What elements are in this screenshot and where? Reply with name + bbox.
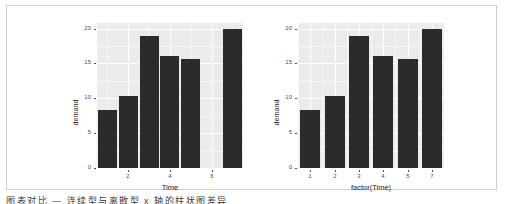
y-tick-mark <box>94 168 96 169</box>
y-tick-label: 0 <box>77 164 91 170</box>
plot-panel <box>298 23 444 168</box>
x-tick-label: 3 <box>351 173 367 179</box>
bar <box>398 59 418 168</box>
gridline-vertical-minor <box>298 23 299 168</box>
x-tick-label: 4 <box>162 173 178 179</box>
bar <box>422 29 442 168</box>
bar <box>140 36 159 168</box>
bar <box>223 29 242 168</box>
bar <box>349 36 369 168</box>
plot-panel <box>97 23 243 168</box>
y-tick-label: 5 <box>77 129 91 135</box>
x-tick-label: 2 <box>120 173 136 179</box>
caption-text: 图表对比 — 连续型与离散型 x 轴的柱状图差异 <box>6 196 228 204</box>
gridline-vertical-minor <box>347 23 348 168</box>
gridline-vertical-major <box>212 23 213 168</box>
y-tick-mark <box>94 29 96 30</box>
x-tick-label: 2 <box>327 173 343 179</box>
y-tick-mark <box>295 29 297 30</box>
x-tick-label: 4 <box>375 173 391 179</box>
x-axis-title: Time <box>97 183 243 192</box>
y-tick-label: 0 <box>278 164 292 170</box>
bar <box>160 56 179 168</box>
y-tick-label: 15 <box>278 59 292 65</box>
x-tick-mark <box>128 170 129 172</box>
y-tick-mark <box>295 133 297 134</box>
y-tick-mark <box>295 168 297 169</box>
y-tick-mark <box>94 98 96 99</box>
x-tick-mark <box>432 170 433 172</box>
x-tick-label: 7 <box>424 173 440 179</box>
x-tick-mark <box>170 170 171 172</box>
y-tick-mark <box>94 133 96 134</box>
bar <box>373 56 393 168</box>
y-tick-label: 15 <box>77 59 91 65</box>
x-tick-label: 5 <box>400 173 416 179</box>
gridline-vertical-minor <box>420 23 421 168</box>
bar <box>325 96 345 168</box>
y-tick-mark <box>295 63 297 64</box>
gridline-vertical-minor <box>395 23 396 168</box>
y-tick-mark <box>94 63 96 64</box>
y-tick-label: 5 <box>278 129 292 135</box>
x-tick-mark <box>408 170 409 172</box>
x-tick-mark <box>335 170 336 172</box>
gridline-vertical-minor <box>322 23 323 168</box>
bar <box>119 96 138 168</box>
y-tick-label: 20 <box>77 25 91 31</box>
y-tick-label: 10 <box>77 94 91 100</box>
x-tick-mark <box>212 170 213 172</box>
x-tick-mark <box>383 170 384 172</box>
y-tick-label: 20 <box>278 25 292 31</box>
bar <box>181 59 200 168</box>
chart-discrete-x: demand 05101520 123457 factor(Time) <box>252 6 496 191</box>
y-tick-label: 10 <box>278 94 292 100</box>
figure-frame: demand 05101520 246 Time demand 05101520… <box>6 5 497 190</box>
x-tick-label: 6 <box>204 173 220 179</box>
x-tick-mark <box>310 170 311 172</box>
figure-caption-cropped: 图表对比 — 连续型与离散型 x 轴的柱状图差异 <box>6 196 497 204</box>
y-tick-mark <box>295 98 297 99</box>
x-tick-label: 1 <box>302 173 318 179</box>
x-tick-mark <box>359 170 360 172</box>
x-axis-title: factor(Time) <box>298 183 444 192</box>
bar <box>98 110 117 168</box>
chart-continuous-x: demand 05101520 246 Time <box>7 6 252 191</box>
gridline-vertical-minor <box>371 23 372 168</box>
bar <box>300 110 320 168</box>
